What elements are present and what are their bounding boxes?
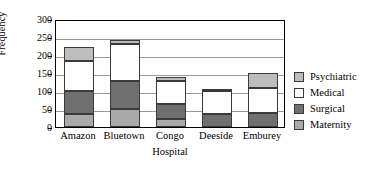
x-tick-label: Deeside [193, 130, 239, 142]
legend-label: Surgical [310, 103, 345, 115]
bar-segment-surgical[interactable] [202, 114, 232, 127]
plot-area [55, 20, 285, 128]
y-tick-label: 100 [18, 87, 52, 97]
bar-amazon[interactable] [64, 19, 94, 127]
y-tick-mark [48, 92, 52, 93]
bar-segment-medical[interactable] [202, 91, 232, 115]
legend-label: Psychiatric [310, 71, 357, 83]
legend-swatch [294, 104, 304, 114]
bar-segment-maternity[interactable] [64, 114, 94, 127]
y-tick-label: 0 [18, 123, 52, 133]
bar-group [56, 21, 284, 127]
legend-item[interactable]: Surgical [294, 102, 357, 116]
x-axis-title: Hospital [55, 146, 285, 157]
legend-swatch [294, 120, 304, 130]
y-tick-mark [48, 128, 52, 129]
bar-segment-psychiatric[interactable] [64, 47, 94, 61]
y-axis-title: Frequency [0, 0, 7, 79]
bar-segment-surgical[interactable] [248, 113, 278, 127]
legend-swatch [294, 72, 304, 82]
bar-segment-surgical[interactable] [110, 81, 140, 108]
legend-item[interactable]: Medical [294, 86, 357, 100]
legend-label: Medical [310, 87, 344, 99]
legend-label: Maternity [310, 119, 351, 131]
bar-emburey[interactable] [248, 19, 278, 127]
bar-segment-medical[interactable] [248, 88, 278, 113]
y-axis-ticks: 050100150200250300 [10, 20, 52, 128]
bar-segment-medical[interactable] [156, 81, 186, 104]
bar-deeside[interactable] [202, 19, 232, 127]
y-tick-mark [48, 110, 52, 111]
bar-segment-maternity[interactable] [156, 119, 186, 127]
bar-segment-maternity[interactable] [110, 109, 140, 127]
legend-swatch [294, 88, 304, 98]
y-tick-label: 150 [18, 69, 52, 79]
y-tick-label: 300 [18, 15, 52, 25]
y-tick-label: 250 [18, 33, 52, 43]
bar-segment-surgical[interactable] [156, 104, 186, 119]
bar-segment-psychiatric[interactable] [156, 77, 186, 81]
bar-segment-psychiatric[interactable] [110, 40, 140, 45]
x-axis-labels: AmazonBluetownCongoDeesideEmburey [55, 130, 285, 144]
bar-segment-medical[interactable] [64, 61, 94, 91]
x-tick-label: Emburey [239, 130, 285, 142]
legend-item[interactable]: Maternity [294, 118, 357, 132]
bar-segment-surgical[interactable] [64, 91, 94, 114]
chart-legend: PsychiatricMedicalSurgicalMaternity [294, 70, 357, 134]
x-tick-label: Bluetown [101, 130, 147, 142]
bar-segment-medical[interactable] [110, 44, 140, 81]
x-tick-label: Amazon [55, 130, 101, 142]
chart-root: Frequency 050100150200250300 AmazonBluet… [0, 0, 379, 170]
y-tick-mark [48, 74, 52, 75]
bar-congo[interactable] [156, 19, 186, 127]
bar-segment-psychiatric[interactable] [248, 73, 278, 88]
y-tick-label: 200 [18, 51, 52, 61]
y-tick-mark [48, 56, 52, 57]
y-tick-mark [48, 38, 52, 39]
y-tick-mark [48, 20, 52, 21]
bar-bluetown[interactable] [110, 19, 140, 127]
y-tick-label: 50 [18, 105, 52, 115]
bar-segment-psychiatric[interactable] [202, 89, 232, 91]
x-tick-label: Congo [147, 130, 193, 142]
legend-item[interactable]: Psychiatric [294, 70, 357, 84]
